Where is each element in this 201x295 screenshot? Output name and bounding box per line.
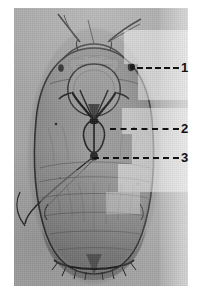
callout-1-leader[interactable] (137, 67, 179, 69)
micrograph-plate (14, 8, 188, 286)
callout-3-leader[interactable] (93, 157, 179, 159)
callout-1-label[interactable]: 1 (181, 61, 188, 74)
dorsal-pore-right (128, 63, 134, 71)
callout-2-label[interactable]: 2 (181, 122, 188, 135)
rostrum-knob (90, 118, 99, 124)
plate-right-highlight (160, 8, 188, 286)
callout-2-leader[interactable] (110, 128, 179, 130)
callout-3-label[interactable]: 3 (181, 151, 188, 164)
figure-root: 1 2 3 (0, 0, 201, 295)
label-patch-f (106, 192, 140, 214)
dorsal-setal-pore-a (55, 123, 58, 126)
dorsal-pore-left (58, 64, 64, 72)
detached-seta-hook (17, 192, 25, 226)
